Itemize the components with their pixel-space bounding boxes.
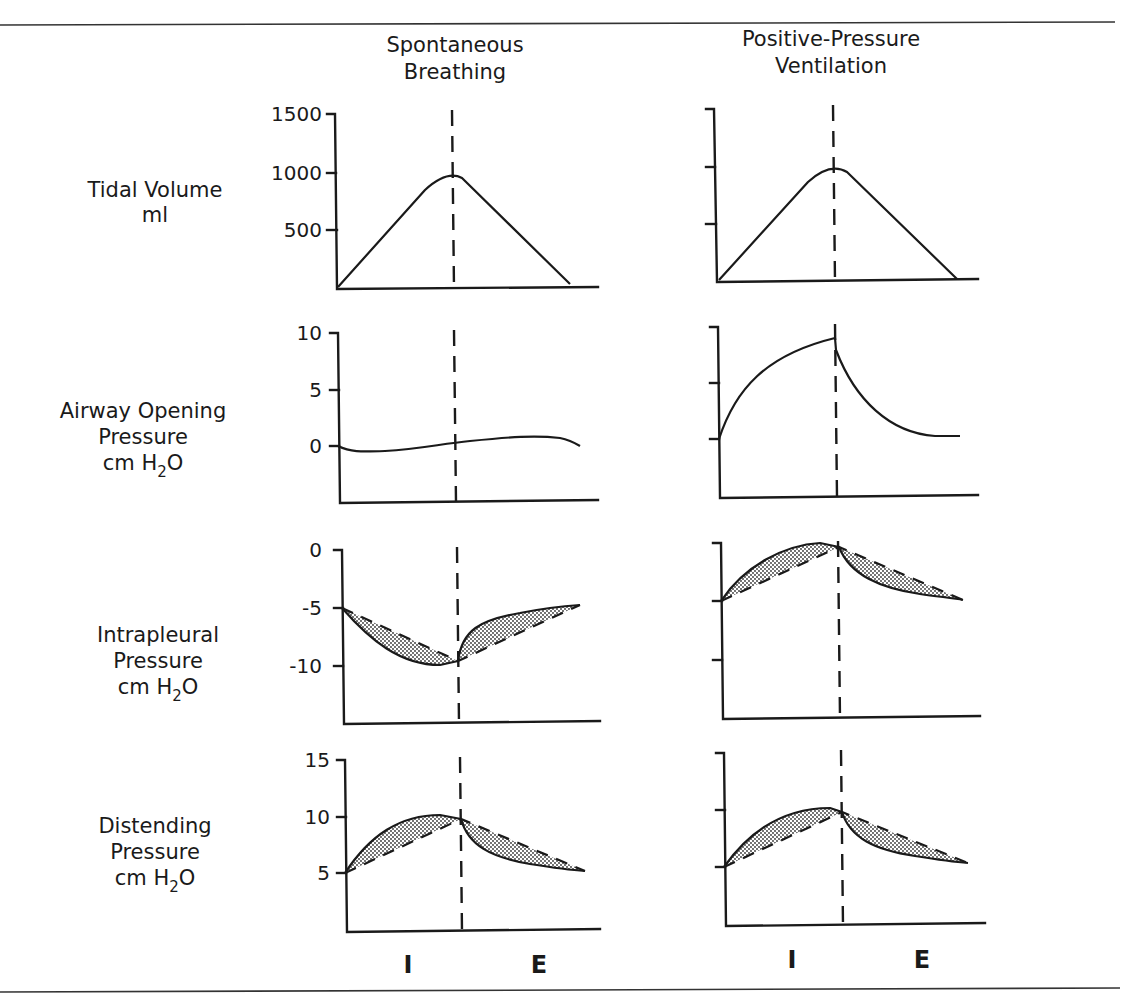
phase-label-expiration-ppv: E bbox=[914, 946, 930, 974]
y-tick-label: 10 bbox=[305, 805, 330, 829]
row-label-line2: Pressure bbox=[110, 840, 200, 864]
column-title-line2: Breathing bbox=[404, 60, 506, 84]
row-label-unit: cm H2O bbox=[103, 451, 184, 481]
y-tick-label: 1000 bbox=[271, 161, 322, 185]
bottom-rule bbox=[0, 988, 1120, 992]
panel-airway-ppv bbox=[710, 324, 978, 498]
phase-label-expiration-spontaneous: E bbox=[531, 951, 547, 979]
y-axis bbox=[706, 109, 978, 282]
y-axis bbox=[710, 327, 978, 498]
shaded-region-inspiration bbox=[345, 815, 461, 873]
row-label-line1: Distending bbox=[98, 814, 211, 838]
column-title-line2: Ventilation bbox=[775, 54, 887, 78]
row-label-line1: Airway Opening bbox=[60, 399, 227, 423]
row-label-intrapleural-pressure: Intrapleural Pressure cm H2O bbox=[97, 623, 219, 705]
phase-divider bbox=[833, 105, 835, 281]
panel-airway-spontaneous: 10 5 0 bbox=[297, 321, 598, 503]
panel-distending-ppv bbox=[716, 750, 985, 926]
pressure-curve bbox=[719, 338, 960, 439]
phase-label-inspiration-spontaneous: I bbox=[404, 951, 413, 979]
y-axis bbox=[330, 333, 598, 503]
phase-divider bbox=[452, 110, 454, 288]
y-tick-label: 500 bbox=[284, 218, 322, 242]
y-axis bbox=[327, 114, 598, 289]
y-tick-label: 0 bbox=[309, 434, 322, 458]
phase-divider bbox=[460, 757, 462, 931]
row-label-line2: ml bbox=[142, 203, 168, 227]
column-title-spontaneous: Spontaneous Breathing bbox=[386, 33, 523, 84]
row-label-tidal-volume: Tidal Volume ml bbox=[87, 178, 223, 227]
y-tick-label: 10 bbox=[297, 321, 322, 345]
y-tick-label: -10 bbox=[289, 654, 322, 678]
row-label-distending-pressure: Distending Pressure cm H2O bbox=[98, 814, 211, 896]
row-label-airway-opening-pressure: Airway Opening Pressure cm H2O bbox=[60, 399, 227, 481]
y-tick-label: -5 bbox=[302, 596, 322, 620]
y-tick-label: 5 bbox=[309, 378, 322, 402]
row-label-line2: Pressure bbox=[113, 649, 203, 673]
panel-intrapleural-spontaneous: 0 -5 -10 bbox=[289, 538, 600, 724]
y-tick-label: 0 bbox=[309, 538, 322, 562]
panel-distending-spontaneous: 15 10 5 bbox=[305, 748, 600, 932]
row-label-line1: Tidal Volume bbox=[87, 178, 223, 202]
row-label-unit: cm H2O bbox=[115, 866, 196, 896]
volume-curve bbox=[719, 169, 957, 280]
ventilation-comparison-figure: Spontaneous Breathing Positive-Pressure … bbox=[0, 0, 1137, 998]
column-title-line1: Spontaneous bbox=[386, 33, 523, 57]
row-label-unit: cm H2O bbox=[118, 675, 199, 705]
phase-divider bbox=[457, 547, 459, 723]
panel-intrapleural-ppv bbox=[713, 541, 980, 719]
column-title-ppv: Positive-Pressure Ventilation bbox=[742, 27, 920, 78]
row-label-line1: Intrapleural bbox=[97, 623, 219, 647]
y-tick-label: 1500 bbox=[271, 102, 322, 126]
pressure-curve bbox=[338, 437, 580, 452]
row-label-line2: Pressure bbox=[98, 425, 188, 449]
phase-divider bbox=[454, 330, 456, 502]
panel-tidal-volume-ppv bbox=[706, 105, 978, 282]
phase-divider bbox=[841, 750, 843, 925]
top-rule bbox=[0, 22, 1115, 25]
phase-label-inspiration-ppv: I bbox=[788, 946, 797, 974]
column-title-line1: Positive-Pressure bbox=[742, 27, 920, 51]
phase-divider bbox=[838, 541, 840, 718]
panel-tidal-volume-spontaneous: 1500 1000 500 bbox=[271, 102, 598, 289]
y-tick-label: 5 bbox=[317, 861, 330, 885]
y-tick-label: 15 bbox=[305, 748, 330, 772]
